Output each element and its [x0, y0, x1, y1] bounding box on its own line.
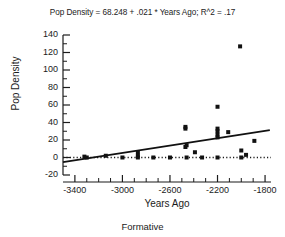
- data-point: [185, 156, 189, 160]
- data-point: [216, 105, 220, 109]
- y-tick-label: 140: [20, 29, 58, 39]
- y-tick-label: -20: [20, 169, 58, 179]
- regression-fit-line: [63, 130, 270, 162]
- y-tick-label: 80: [20, 82, 58, 92]
- data-point: [238, 44, 242, 48]
- data-point: [200, 156, 204, 160]
- y-tick-label: 40: [20, 117, 58, 127]
- data-point: [85, 156, 89, 160]
- data-point: [193, 150, 197, 154]
- data-point: [104, 154, 108, 158]
- y-tick-label: 120: [20, 47, 58, 57]
- x-tick-label: -1800: [243, 185, 285, 195]
- data-point: [244, 153, 248, 157]
- data-point: [183, 127, 187, 131]
- data-point: [216, 156, 220, 160]
- scatter-chart-figure: Pop Density = 68.248 + .021 * Years Ago;…: [0, 0, 285, 237]
- regression-line: [63, 130, 270, 162]
- data-point: [151, 156, 155, 160]
- x-axis-label: Years Ago: [63, 198, 271, 209]
- data-point: [239, 149, 243, 153]
- y-tick-label: 0: [20, 152, 58, 162]
- x-tick-label: -2600: [148, 185, 192, 195]
- data-point: [136, 150, 140, 154]
- y-axis-label: Pop Density: [10, 44, 21, 124]
- data-point: [168, 156, 172, 160]
- x-tick-label: -2200: [196, 185, 240, 195]
- x-tick-label: -3000: [100, 185, 144, 195]
- y-tick-label: 100: [20, 64, 58, 74]
- data-point: [239, 156, 243, 160]
- data-point: [136, 156, 140, 160]
- data-point: [185, 143, 189, 147]
- data-point: [216, 129, 220, 133]
- y-tick-label: 20: [20, 134, 58, 144]
- x-tick-marks: [75, 175, 265, 182]
- y-tick-label: 60: [20, 99, 58, 109]
- data-point: [216, 135, 220, 139]
- data-point: [226, 130, 230, 134]
- data-points: [82, 44, 256, 159]
- data-point: [120, 156, 124, 160]
- y-tick-marks: [63, 35, 70, 175]
- figure-caption: Formative: [0, 221, 285, 232]
- axis-frame: [63, 35, 271, 182]
- data-point: [252, 139, 256, 143]
- x-tick-label: -3400: [53, 185, 97, 195]
